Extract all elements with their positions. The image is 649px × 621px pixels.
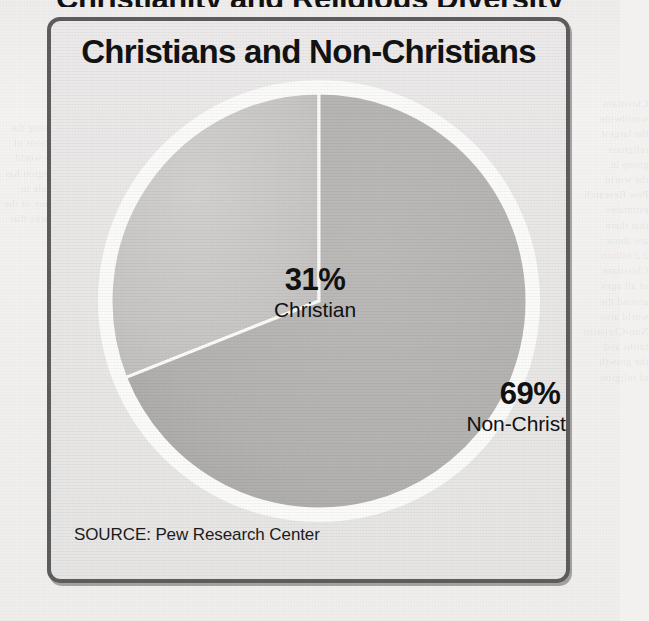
bleed-through-text-right: Christians worldwide the largest religio… bbox=[583, 96, 649, 385]
chart-panel: Christians and Non-Christians bbox=[47, 17, 570, 583]
pie-chart: 31% Christian 69% Non-Christian bbox=[95, 77, 543, 525]
pie-label-christian-value: 31% bbox=[215, 263, 415, 297]
pie-label-non-christian-name: Non-Christian bbox=[415, 411, 570, 436]
pie-label-non-christian: 69% Non-Christian bbox=[415, 377, 570, 436]
pie-label-non-christian-value: 69% bbox=[415, 377, 570, 411]
pie-label-christian: 31% Christian bbox=[215, 263, 415, 322]
pie-label-christian-name: Christian bbox=[215, 297, 415, 322]
chart-source-note: SOURCE: Pew Research Center bbox=[74, 525, 320, 545]
chart-title: Christians and Non-Christians bbox=[51, 33, 566, 71]
clipped-headline-above-frame: Christianity and Religious Diversity bbox=[56, 0, 576, 7]
